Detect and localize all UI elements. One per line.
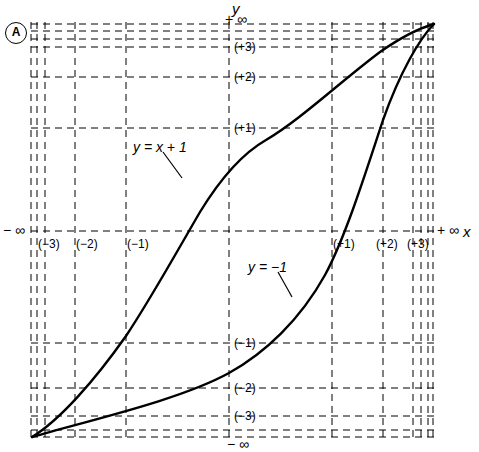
figure-canvas: A y + ∞ − ∞ x − ∞ + ∞ (−3) (−2) (−1) (+1… [0, 0, 479, 452]
curve-label-y-minus-1: y = −1 [248, 260, 287, 274]
x-axis-max-label: + ∞ [437, 223, 459, 237]
x-tick-label: (−3) [38, 238, 60, 250]
y-axis-min-label: − ∞ [227, 437, 249, 451]
x-tick-label: (−1) [127, 238, 149, 250]
leader-line-y-x-plus-1 [163, 152, 182, 178]
y-tick-label: (−1) [234, 337, 256, 349]
curve-label-y-x-plus-1: y = x + 1 [133, 140, 187, 154]
x-tick-label: (+1) [333, 238, 355, 250]
y-tick-label: (−3) [234, 410, 256, 422]
y-tick-label: (+3) [234, 41, 256, 53]
panel-label-a: A [5, 22, 27, 44]
y-tick-label: (−2) [234, 382, 256, 394]
y-tick-label: (+1) [234, 122, 256, 134]
x-tick-label: (+2) [376, 238, 398, 250]
x-axis-min-label: − ∞ [3, 223, 25, 237]
y-tick-label: (+2) [234, 71, 256, 83]
x-tick-label: (+3) [407, 238, 429, 250]
x-tick-label: (−2) [76, 238, 98, 250]
grid-horizontal-lines [31, 24, 437, 437]
leader-line-y-minus-1 [278, 272, 292, 297]
x-axis-name: x [463, 224, 471, 239]
y-axis-max-label: + ∞ [225, 12, 247, 26]
